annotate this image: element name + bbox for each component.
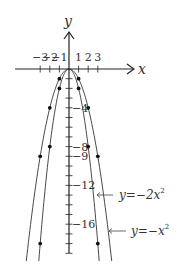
x-axis-label: x: [138, 61, 146, 77]
y-tick-label: −9: [72, 150, 88, 163]
curve-label-neg2x2: y=−2x2: [118, 187, 165, 202]
data-point: [86, 106, 90, 110]
data-point: [96, 154, 100, 158]
data-point: [86, 145, 90, 149]
data-point: [96, 242, 100, 246]
x-tick-label: 3: [94, 51, 101, 64]
x-tick-label: −1: [51, 51, 67, 64]
y-tick-label: −16: [72, 218, 95, 231]
data-point: [48, 106, 52, 110]
axes: x y: [15, 13, 146, 253]
parabola-graph: x y −3−2−1123 −4−8−9−12−16 y=−2x2 y=−x2: [0, 0, 182, 278]
x-tick-label: 1: [75, 51, 82, 64]
annotation-y-negx2: y=−x2: [109, 223, 169, 238]
data-point: [38, 242, 42, 246]
data-point: [77, 87, 81, 91]
y-tick-label: −4: [72, 102, 88, 115]
data-point: [58, 77, 62, 81]
curve-label-negx2: y=−x2: [130, 223, 169, 238]
data-point: [38, 154, 42, 158]
data-point: [58, 87, 62, 91]
data-point: [77, 77, 81, 81]
y-axis-label: y: [63, 13, 73, 29]
x-tick-label: 2: [85, 51, 92, 64]
annotation-y-neg2x2: y=−2x2: [97, 187, 165, 202]
data-point: [48, 145, 52, 149]
